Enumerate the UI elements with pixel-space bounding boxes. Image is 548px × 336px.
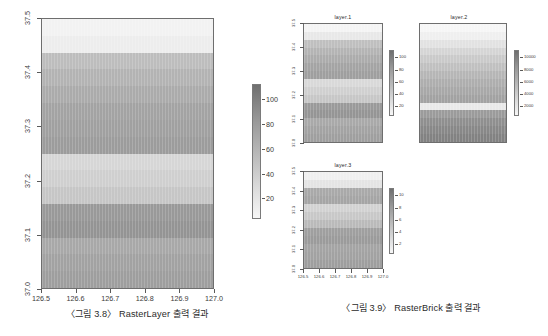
- colorbar-tick: [262, 174, 265, 175]
- y-axis-tick: [37, 72, 41, 73]
- raster-row: [420, 32, 506, 40]
- raster-row: [304, 204, 382, 212]
- colorbar-tick: [520, 70, 523, 71]
- raster-row: [420, 87, 506, 95]
- y-axis-label: 37.2: [11, 172, 35, 190]
- raster-row: [420, 95, 506, 103]
- colorbar-tick: [395, 195, 398, 196]
- y-axis-tick: [37, 181, 41, 182]
- layer3-raster: [304, 172, 382, 268]
- colorbar-label: 40: [266, 170, 274, 179]
- y-axis-tick: [37, 126, 41, 127]
- colorbar-label: 4000: [524, 91, 533, 96]
- raster-row: [304, 87, 382, 95]
- x-axis-label: 126.9: [161, 294, 197, 303]
- colorbar-tick: [395, 244, 398, 245]
- layer1-title: layer.1: [288, 14, 398, 20]
- raster-row: [304, 260, 382, 268]
- raster-row: [42, 238, 213, 255]
- x-axis-tick: [179, 289, 180, 293]
- raster-row: [304, 196, 382, 204]
- rasterlayer-raster: [42, 19, 213, 288]
- x-axis-tick: [351, 269, 352, 273]
- y-axis-label: 37.5: [11, 9, 35, 27]
- raster-row: [42, 187, 213, 204]
- colorbar-tick: [395, 220, 398, 221]
- colorbar-tick: [262, 149, 265, 150]
- raster-row: [304, 63, 382, 71]
- colorbar-label: 6: [399, 217, 401, 222]
- colorbar-label: 10: [399, 192, 404, 197]
- rasterlayer-figure: 37.037.137.237.337.437.5 126.5126.6126.7…: [0, 0, 274, 336]
- raster-row: [304, 228, 382, 236]
- colorbar-tick: [520, 94, 523, 95]
- layer2-title: layer.2: [404, 14, 514, 20]
- raster-row: [420, 134, 506, 142]
- colorbar-tick: [395, 106, 398, 107]
- y-axis-label: 37.3: [11, 117, 35, 135]
- y-axis-label: 37.3: [274, 62, 298, 80]
- colorbar-label: 80: [399, 67, 404, 72]
- layer1-plot-area: [303, 23, 383, 143]
- colorbar-gradient: [514, 50, 519, 116]
- raster-row: [304, 95, 382, 103]
- x-axis-tick: [319, 269, 320, 273]
- colorbar-tick: [262, 99, 265, 100]
- y-axis-label: 37.1: [274, 110, 298, 128]
- raster-row: [304, 172, 382, 180]
- raster-row: [420, 110, 506, 118]
- raster-row: [42, 120, 213, 137]
- colorbar-label: 80: [266, 120, 274, 129]
- x-axis-label: 126.5: [23, 294, 59, 303]
- colorbar-tick: [395, 82, 398, 83]
- colorbar-tick: [395, 70, 398, 71]
- x-axis-label: 127.0: [365, 274, 401, 279]
- colorbar-label: 20: [399, 103, 404, 108]
- raster-row: [304, 110, 382, 118]
- rasterlayer-colorbar: [252, 84, 261, 219]
- y-axis-label: 37.1: [11, 226, 35, 244]
- rasterlayer-plot-area: [41, 18, 214, 289]
- raster-row: [42, 170, 213, 187]
- colorbar-label: 20: [266, 194, 274, 203]
- colorbar-label: 2000: [524, 103, 533, 108]
- x-axis-label: 126.6: [58, 294, 94, 303]
- layer2-raster: [420, 24, 506, 142]
- x-axis-tick: [367, 269, 368, 273]
- x-axis-label: 127.0: [196, 294, 232, 303]
- raster-row: [42, 86, 213, 103]
- y-axis-tick: [37, 235, 41, 236]
- raster-row: [304, 48, 382, 56]
- figure-page: 37.037.137.237.337.437.5 126.5126.6126.7…: [0, 0, 548, 336]
- raster-row: [42, 53, 213, 70]
- raster-row: [304, 188, 382, 196]
- raster-row: [304, 180, 382, 188]
- raster-row: [304, 126, 382, 134]
- raster-row: [42, 69, 213, 86]
- x-axis-tick: [145, 289, 146, 293]
- y-axis-label: 37.0: [274, 134, 298, 152]
- layer2-colorbar: [514, 50, 519, 116]
- colorbar-gradient: [389, 50, 394, 116]
- raster-row: [42, 19, 213, 36]
- colorbar-tick: [520, 57, 523, 58]
- colorbar-tick: [395, 94, 398, 95]
- rasterbrick-figure: layer.1 37.037.137.237.337.437.5 1008060…: [274, 0, 548, 336]
- layer1-raster: [304, 24, 382, 142]
- y-axis-label: 37.4: [274, 182, 298, 200]
- raster-row: [42, 254, 213, 271]
- figure-39-caption: 〈그림 3.9〉 RasterBrick 출력 결과: [274, 300, 548, 314]
- colorbar-tick: [395, 57, 398, 58]
- raster-row: [420, 40, 506, 48]
- raster-row: [304, 134, 382, 142]
- raster-row: [304, 244, 382, 252]
- x-axis-tick: [303, 269, 304, 273]
- y-axis-label: 37.3: [274, 201, 298, 219]
- layer1-colorbar: [389, 50, 394, 116]
- raster-row: [304, 103, 382, 111]
- colorbar-label: 4: [399, 229, 401, 234]
- raster-row: [304, 24, 382, 32]
- colorbar-label: 10000: [524, 54, 536, 59]
- raster-row: [304, 79, 382, 87]
- raster-row: [420, 126, 506, 134]
